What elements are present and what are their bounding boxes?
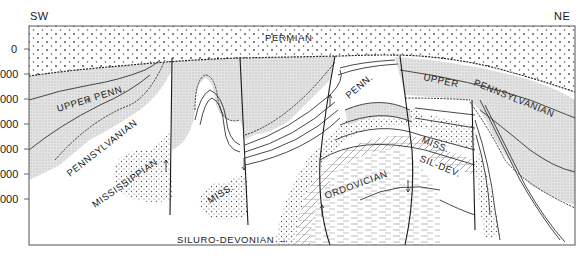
depth-tick-label: 0: [11, 43, 17, 55]
ne-direction-label: NE: [554, 10, 570, 22]
depth-tick-label: 000: [0, 168, 18, 180]
depth-tick-label: 000: [0, 118, 18, 130]
depth-tick-label: 000: [0, 143, 18, 155]
siluro-devonian-callout: SILURO-DEVONIAN →: [177, 234, 288, 245]
depth-axis: 0 000 000 000 000 000 000: [0, 43, 29, 205]
depth-tick-label: 000: [0, 193, 18, 205]
cross-section-svg: SW NE 0 000 000 000 000 000 000: [0, 0, 587, 263]
permian-label: PERMIAN: [265, 32, 312, 43]
cross-section-diagram: SW NE 0 000 000 000 000 000 000: [0, 0, 587, 263]
uncertain-mark: ?: [86, 96, 91, 105]
sw-direction-label: SW: [30, 10, 49, 22]
depth-tick-label: 000: [0, 93, 18, 105]
depth-tick-label: 000: [0, 68, 18, 80]
